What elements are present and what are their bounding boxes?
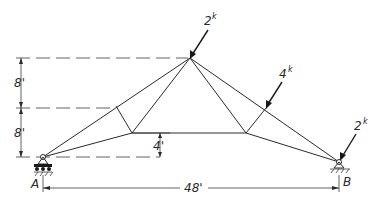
span-dimension: 48' bbox=[43, 175, 339, 195]
chord-rise-label: 4' bbox=[153, 139, 164, 153]
lower-height-label: 8' bbox=[14, 126, 25, 140]
load-right-upper-magnitude: 4 bbox=[279, 67, 287, 81]
load-right-upper-unit: k bbox=[288, 65, 293, 74]
support-b-pin-icon bbox=[330, 160, 350, 174]
load-support-b-magnitude: 2 bbox=[354, 119, 362, 133]
chord-rise-dimension: 4' bbox=[153, 133, 164, 157]
truss-diagram: 8' 8' 4' 2 k 4 k 2 k bbox=[0, 0, 383, 204]
support-a-label: A bbox=[30, 177, 39, 191]
load-apex-magnitude: 2 bbox=[204, 14, 212, 28]
support-a-roller-icon bbox=[34, 155, 53, 177]
load-support-b: 2 k bbox=[340, 117, 368, 161]
load-right-upper: 4 k bbox=[266, 65, 293, 109]
truss-members bbox=[43, 58, 339, 162]
load-apex: 2 k bbox=[190, 12, 217, 59]
load-apex-unit: k bbox=[212, 12, 217, 21]
span-label: 48' bbox=[184, 181, 203, 195]
height-dimension: 8' 8' bbox=[14, 58, 25, 157]
upper-height-label: 8' bbox=[14, 76, 25, 90]
support-b-label: B bbox=[343, 175, 351, 189]
load-support-b-unit: k bbox=[363, 117, 368, 126]
